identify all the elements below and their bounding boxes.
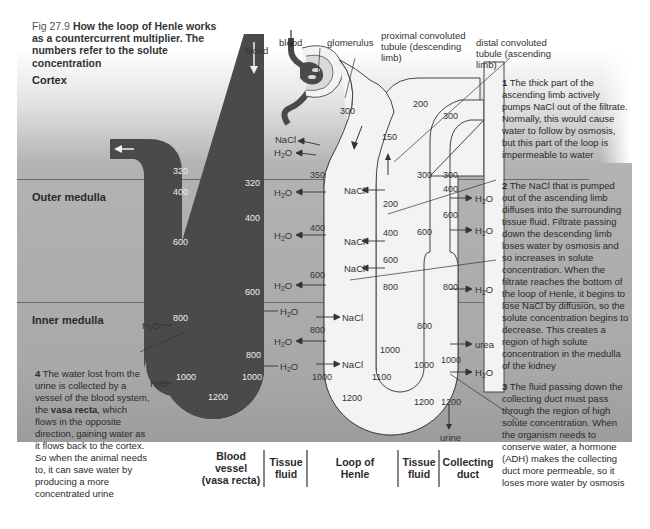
label-blood-glomerulus: blood (279, 37, 302, 48)
label-h2o: H2O (280, 361, 298, 375)
loop-desc-value: 400 (310, 223, 325, 233)
collecting-duct-value: 300 (443, 170, 458, 180)
label-h2o: H2O (475, 225, 493, 239)
loop-asc-value: 200 (383, 199, 398, 209)
note-2-number: 2 (502, 180, 507, 191)
vasa-desc-value: 400 (173, 187, 188, 197)
label-distal-line3: limb) (476, 59, 551, 70)
loop-desc-value: 350 (310, 170, 325, 180)
loop-asc-value: 1000 (380, 345, 400, 355)
label-h2o: H2O (274, 280, 292, 294)
collecting-duct-value: 1000 (441, 355, 461, 365)
label-nacl: NaCl (342, 359, 363, 370)
note-3-text: The fluid passing down the collecting du… (502, 381, 624, 488)
label-nacl: NaCl (344, 185, 365, 196)
vasa-asc-value: 600 (245, 287, 260, 297)
collecting-duct-value: 800 (443, 282, 458, 292)
tissue-fluid-value: 300 (417, 170, 432, 180)
note-4-text-b: , which flows in the opposite direction,… (35, 404, 147, 499)
label-nacl: NaCl (344, 236, 365, 247)
vasa-desc-value: 600 (173, 237, 188, 247)
vasa-asc-value: 320 (245, 178, 260, 188)
label-urine: urine (440, 432, 461, 443)
vasa-desc-value: 320 (173, 166, 188, 176)
label-h2o: H2O (274, 336, 292, 350)
label-urea: urea (475, 339, 494, 350)
tissue-fluid-value: 1200 (414, 397, 434, 407)
vasa-desc-value: 800 (173, 313, 188, 323)
column-label-tissue-fluid-2: Tissue fluid (399, 456, 439, 480)
vasa-asc-value: 800 (246, 350, 261, 360)
label-h2o: H2O (280, 306, 298, 320)
collecting-duct-value: 600 (443, 210, 458, 220)
vasa-asc-value: 400 (245, 213, 260, 223)
label-h2o: H2O (475, 193, 493, 207)
loop-desc-value: 1000 (312, 372, 332, 382)
vasa-asc-value: 1000 (242, 372, 262, 382)
column-label-blood-vessel: Blood vessel (vasa recta) (200, 450, 262, 486)
loop-asc-value: 1100 (372, 372, 391, 382)
note-1-text: The thick part of the ascending limb act… (502, 77, 628, 160)
label-nacl: NaCl (344, 263, 365, 274)
loop-desc-value: 800 (310, 325, 325, 335)
label-proximal-line3: limb) (381, 52, 466, 63)
loop-asc-value: 600 (383, 255, 398, 265)
vasa-recta-vessel (110, 34, 264, 419)
label-h2o: H2O (274, 230, 292, 244)
label-h2o: H2O (475, 367, 493, 381)
loop-desc-value: 600 (310, 270, 325, 280)
note-1: 1 The thick part of the ascending limb a… (502, 77, 630, 161)
column-label-loop-of-henle: Loop of Henle (320, 456, 390, 480)
label-nacl: NaCl (275, 134, 296, 145)
label-distal-tubule: distal convoluted tubule (ascending limb… (476, 37, 551, 70)
label-glomerulus: glomerulus (327, 37, 373, 48)
label-h2o: H2O (274, 147, 292, 161)
note-1-number: 1 (502, 77, 507, 88)
label-h2o: H2O (142, 320, 160, 334)
loop-desc-value: 300 (340, 106, 355, 116)
label-blood-vessel: blood (245, 45, 268, 56)
note-3: 3 The fluid passing down the collecting … (502, 381, 630, 489)
note-4-number: 4 (35, 368, 40, 379)
note-4: 4 The water lost from the urine is colle… (35, 368, 150, 500)
vasa-desc-value: 1000 (176, 372, 196, 382)
column-label-tissue-fluid-1: Tissue fluid (266, 456, 306, 480)
label-proximal-tubule: proximal convoluted tubule (descending l… (381, 30, 466, 63)
tissue-fluid-value: 600 (417, 227, 432, 237)
label-distal-line2: tubule (ascending (476, 48, 551, 59)
label-h2o: H2O (150, 378, 168, 392)
label-h2o: H2O (274, 187, 292, 201)
column-label-collecting-duct: Collecting duct (440, 456, 496, 480)
note-4-bold: vasa recta (51, 404, 97, 415)
distal-value: 200 (413, 99, 428, 109)
tissue-fluid-value: 1000 (414, 360, 434, 370)
vasa-bottom-value: 1200 (208, 392, 228, 402)
loop-bottom-value: 1200 (342, 393, 362, 403)
label-proximal-line2: tubule (descending (381, 41, 466, 52)
label-h2o: H2O (475, 284, 493, 298)
label-nacl: NaCl (342, 312, 363, 323)
label-proximal-line1: proximal convoluted (381, 30, 466, 41)
collecting-duct-value: 300 (443, 111, 458, 121)
loop-asc-value: 400 (383, 228, 398, 238)
note-3-number: 3 (502, 381, 507, 392)
collecting-duct-value: 400 (443, 184, 458, 194)
label-distal-line1: distal convoluted (476, 37, 551, 48)
tissue-fluid-value: 800 (417, 321, 432, 331)
loop-asc-value: 150 (382, 132, 397, 142)
loop-asc-value: 800 (383, 282, 398, 292)
collecting-duct-value: 1200 (441, 397, 461, 407)
note-2-text: The NaCl that is pumped out of the ascen… (502, 180, 628, 371)
note-2: 2 The NaCl that is pumped out of the asc… (502, 180, 630, 372)
